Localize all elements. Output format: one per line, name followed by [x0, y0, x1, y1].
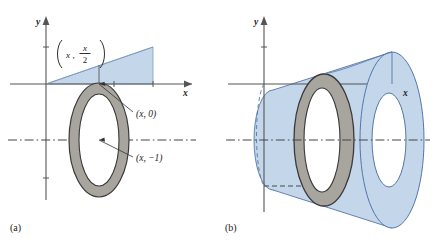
panel-a: x , x 2 (x, 0) (x, −1) x y (a)	[8, 16, 196, 234]
panel-b: x y (b)	[225, 16, 430, 234]
y-axis-label-a: y	[35, 17, 41, 27]
label-point-x-over-2: x , x 2	[58, 40, 105, 68]
panel-a-caption: (a)	[10, 222, 21, 234]
washer-method-figure: x , x 2 (x, 0) (x, −1) x y (a)	[0, 0, 434, 250]
label-point-x-minus-one: (x, −1)	[136, 153, 162, 164]
label-comma: ,	[73, 50, 75, 60]
label-fraction-denominator: 2	[83, 55, 88, 65]
y-axis-label-b: y	[253, 17, 259, 27]
panel-b-caption: (b)	[225, 222, 237, 234]
x-axis-label-a: x	[182, 88, 188, 98]
label-point-x-zero: (x, 0)	[136, 109, 156, 120]
label-fraction-numerator: x	[82, 43, 87, 53]
y-axis-a	[43, 16, 50, 200]
label-x-coordinate: x	[65, 50, 70, 60]
x-axis-label-b: x	[402, 88, 408, 98]
